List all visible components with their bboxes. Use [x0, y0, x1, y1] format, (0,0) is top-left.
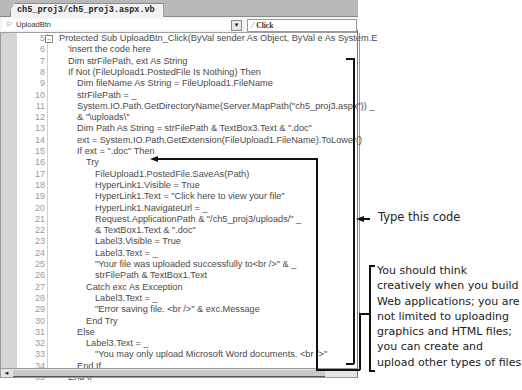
- lightning-icon: ⁄: [252, 21, 253, 30]
- object-dropdown-value: UploadBtn: [16, 20, 51, 29]
- code-line[interactable]: 31Else: [1, 327, 359, 338]
- code-text: 'insert the code here: [68, 44, 151, 55]
- code-line[interactable]: 28Label3.Text = _: [1, 293, 359, 304]
- code-text: Dim strFilePath, ext As String: [68, 56, 187, 67]
- code-text: Request.ApplicationPath & "/ch5_proj3/up…: [95, 214, 301, 225]
- line-number: 25: [17, 259, 45, 270]
- chevron-down-icon[interactable]: ▼: [231, 20, 242, 31]
- code-text: Protected Sub UploadBtn_Click(ByVal send…: [59, 33, 377, 44]
- line-number: 20: [17, 203, 45, 214]
- code-line[interactable]: 18HyperLink1.Visible = True: [1, 180, 359, 191]
- line-number: 12: [17, 112, 45, 123]
- bracket-inner-top: [157, 158, 317, 160]
- bracket-outer-frame-vertical: [357, 30, 358, 378]
- code-text: End Try: [86, 316, 118, 327]
- object-dropdown[interactable]: ⚐UploadBtn: [2, 19, 235, 30]
- code-line[interactable]: 5Protected Sub UploadBtn_Click(ByVal sen…: [1, 33, 359, 44]
- line-number: 7: [17, 56, 45, 67]
- collapse-icon[interactable]: −: [45, 35, 53, 43]
- line-number: 24: [17, 248, 45, 259]
- code-line[interactable]: 19HyperLink1.Text = "Click here to view …: [1, 191, 359, 202]
- event-dropdown[interactable]: ⁄Click: [247, 19, 357, 32]
- code-line[interactable]: 29"Error saving file. <br />" & exc.Mess…: [1, 304, 359, 315]
- code-text: System.IO.Path.GetDirectoryName(Server.M…: [77, 101, 375, 112]
- line-number: 27: [17, 282, 45, 293]
- code-line[interactable]: 30End Try: [1, 316, 359, 327]
- code-text: "Your file was uploaded successfully to<…: [95, 259, 296, 270]
- code-text: & TextBox1.Text & ".doc": [95, 225, 196, 236]
- code-text: Label3.Text = _: [95, 248, 158, 259]
- code-line[interactable]: 14ext = System.IO.Path.GetExtension(File…: [1, 135, 359, 146]
- code-text: Dim fileName As String = FileUpload1.Fil…: [77, 78, 273, 89]
- code-line[interactable]: 9Dim fileName As String = FileUpload1.Fi…: [1, 78, 359, 89]
- bracket-outer-bottom: [346, 363, 354, 365]
- code-line[interactable]: 7Dim strFilePath, ext As String: [1, 56, 359, 67]
- code-line[interactable]: 25"Your file was uploaded successfully t…: [1, 259, 359, 270]
- line-number: 26: [17, 270, 45, 281]
- horizontal-scrollbar[interactable]: ◄: [0, 368, 358, 378]
- code-line[interactable]: 27Catch exc As Exception: [1, 282, 359, 293]
- line-number: 13: [17, 123, 45, 134]
- code-line[interactable]: 22& TextBox1.Text & ".doc": [1, 225, 359, 236]
- line-number: 23: [17, 236, 45, 247]
- code-text: Dim Path As String = strFilePath & TextB…: [77, 123, 312, 134]
- code-line[interactable]: 17FileUpload1.PostedFile.SaveAs(Path): [1, 169, 359, 180]
- code-line[interactable]: 32Label3.Text = _: [1, 338, 359, 349]
- code-line[interactable]: 33"You may only upload Microsoft Word do…: [1, 349, 359, 360]
- line-number: 9: [17, 78, 45, 89]
- line-number: 33: [17, 349, 45, 360]
- pointer-line-type-code: [363, 218, 370, 220]
- bracket-outer-vertical: [353, 58, 355, 364]
- line-number: 21: [17, 214, 45, 225]
- annotation-creative-note: You should think creatively when you bui…: [377, 263, 522, 370]
- control-icon: ⚐: [6, 20, 13, 29]
- line-number: 16: [17, 157, 45, 168]
- code-line[interactable]: 10strFilePath = _: [1, 90, 359, 101]
- code-line[interactable]: 20HyperLink1.NavigateUrl = _: [1, 203, 359, 214]
- scroll-left-icon[interactable]: ◄: [2, 369, 11, 377]
- code-text: "You may only upload Microsoft Word docu…: [95, 349, 327, 360]
- code-text: strFilePath = _: [77, 90, 137, 101]
- line-number: 14: [17, 135, 45, 146]
- code-line[interactable]: 13Dim Path As String = strFilePath & Tex…: [1, 123, 359, 134]
- code-text: ext = System.IO.Path.GetExtension(FileUp…: [77, 135, 362, 146]
- code-editor-window: ch5_proj3/ch5_proj3.aspx.vb ⚐UploadBtn ▼…: [0, 0, 358, 378]
- code-text: Label3.Visible = True: [95, 236, 181, 247]
- code-text: & "\uploads\": [77, 112, 130, 123]
- code-line[interactable]: 15If ext = ".doc" Then: [1, 146, 359, 157]
- code-line[interactable]: 24Label3.Text = _: [1, 248, 359, 259]
- scrollbar-thumb[interactable]: [13, 370, 325, 377]
- line-number: 31: [17, 327, 45, 338]
- line-number: 22: [17, 225, 45, 236]
- bracket-inner-connector: [359, 313, 369, 315]
- code-line[interactable]: 26strFilePath & TextBox1.Text: [1, 270, 359, 281]
- code-text: FileUpload1.PostedFile.SaveAs(Path): [95, 169, 249, 180]
- document-tabstrip: ch5_proj3/ch5_proj3.aspx.vb: [0, 0, 358, 17]
- line-number: 32: [17, 338, 45, 349]
- annotation-type-code: Type this code: [378, 210, 460, 224]
- code-line[interactable]: 23Label3.Visible = True: [1, 236, 359, 247]
- line-number: 30: [17, 316, 45, 327]
- code-line[interactable]: 11System.IO.Path.GetDirectoryName(Server…: [1, 101, 359, 112]
- code-text: HyperLink1.NavigateUrl = _: [95, 203, 208, 214]
- line-number: 15: [17, 146, 45, 157]
- line-number: 29: [17, 304, 45, 315]
- code-line[interactable]: 21Request.ApplicationPath & "/ch5_proj3/…: [1, 214, 359, 225]
- bracket-inner-vertical: [316, 158, 318, 370]
- code-text: Try: [86, 157, 99, 168]
- code-text: Catch exc As Exception: [86, 282, 183, 293]
- code-text: Label3.Text = _: [95, 293, 158, 304]
- line-number: 11: [17, 101, 45, 112]
- code-text: HyperLink1.Text = "Click here to view yo…: [95, 191, 285, 202]
- line-number: 19: [17, 191, 45, 202]
- line-number: 10: [17, 90, 45, 101]
- code-text: "Error saving file. <br />" & exc.Messag…: [95, 304, 260, 315]
- bracket-note-vertical: [369, 265, 371, 371]
- code-line[interactable]: 12& "\uploads\": [1, 112, 359, 123]
- code-editor[interactable]: 5Protected Sub UploadBtn_Click(ByVal sen…: [0, 33, 360, 368]
- code-line[interactable]: 6'insert the code here: [1, 44, 359, 55]
- code-text: Label3.Text = _: [86, 338, 149, 349]
- code-line[interactable]: 8If Not (FileUpload1.PostedFile Is Nothi…: [1, 67, 359, 78]
- line-number: 28: [17, 293, 45, 304]
- tab-ch5-proj3-aspx-vb[interactable]: ch5_proj3/ch5_proj3.aspx.vb: [10, 3, 164, 17]
